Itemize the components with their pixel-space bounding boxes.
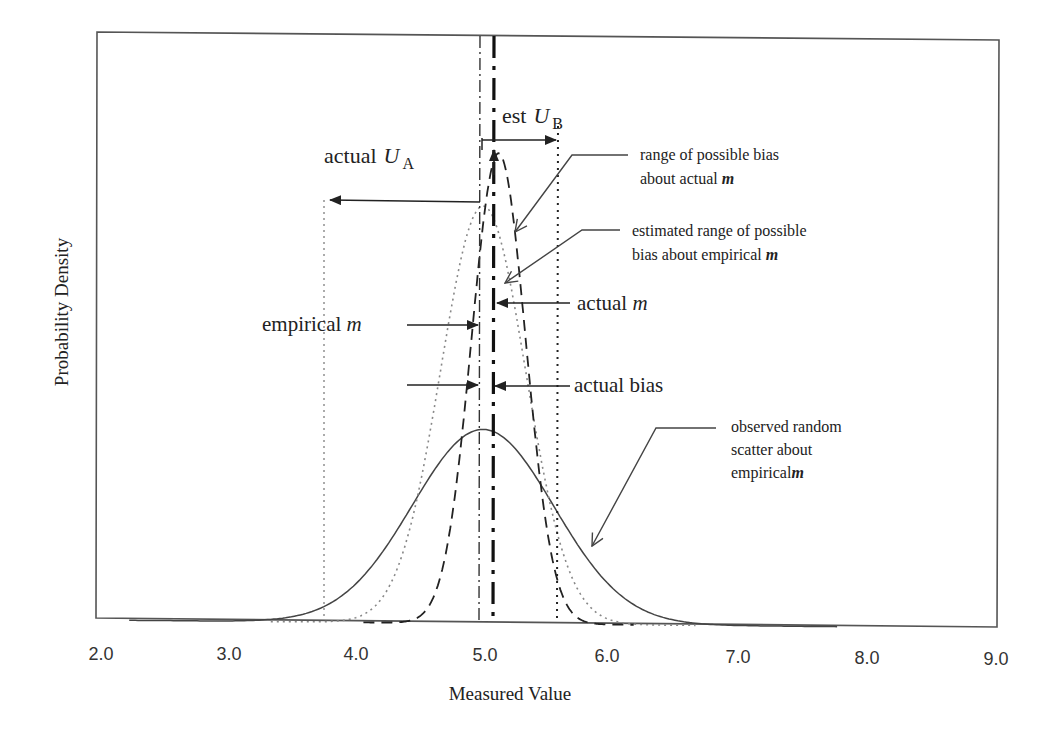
actual-ua-arrow: [330, 200, 480, 202]
range-actual-leader: [515, 155, 628, 232]
x-tick: 8.0: [854, 648, 879, 668]
observed-scatter-leader: [592, 428, 716, 546]
actual-m-line: [493, 36, 494, 623]
range-empirical-label: estimated range of possible bias about e…: [632, 222, 811, 264]
empirical-m-line: [479, 36, 480, 622]
observed-scatter-curve: [129, 429, 837, 626]
x-tick: 6.0: [594, 646, 619, 666]
x-axis-label: Measured Value: [449, 683, 572, 704]
estimated-bias-range-curve: [271, 206, 696, 625]
chart-canvas: estUB actualUA range of possible bias ab…: [0, 0, 1059, 741]
actual-m-label: actual m: [577, 291, 648, 315]
empirical-m-label: empirical m: [262, 312, 362, 336]
x-tick: 5.0: [472, 645, 497, 665]
range-empirical-leader: [505, 230, 620, 283]
x-tick: 4.0: [343, 644, 368, 664]
observed-scatter-label: observed random scatter about empiricalm: [731, 418, 846, 482]
actual-ua-label: actualUA: [324, 143, 414, 172]
x-tick: 9.0: [983, 649, 1008, 669]
est-ub-bound-line: [557, 126, 558, 623]
x-tick: 2.0: [88, 644, 113, 664]
actual-bias-label: actual bias: [574, 373, 663, 397]
x-tick: 7.0: [725, 647, 750, 667]
y-axis-label: Probability Density: [51, 237, 72, 386]
x-tick: 3.0: [216, 644, 241, 664]
range-actual-label: range of possible bias about actual m: [640, 146, 783, 187]
est-ub-label: estUB: [502, 103, 563, 132]
x-tick-labels: 2.0 3.0 4.0 5.0 6.0 7.0 8.0 9.0: [88, 644, 1008, 669]
